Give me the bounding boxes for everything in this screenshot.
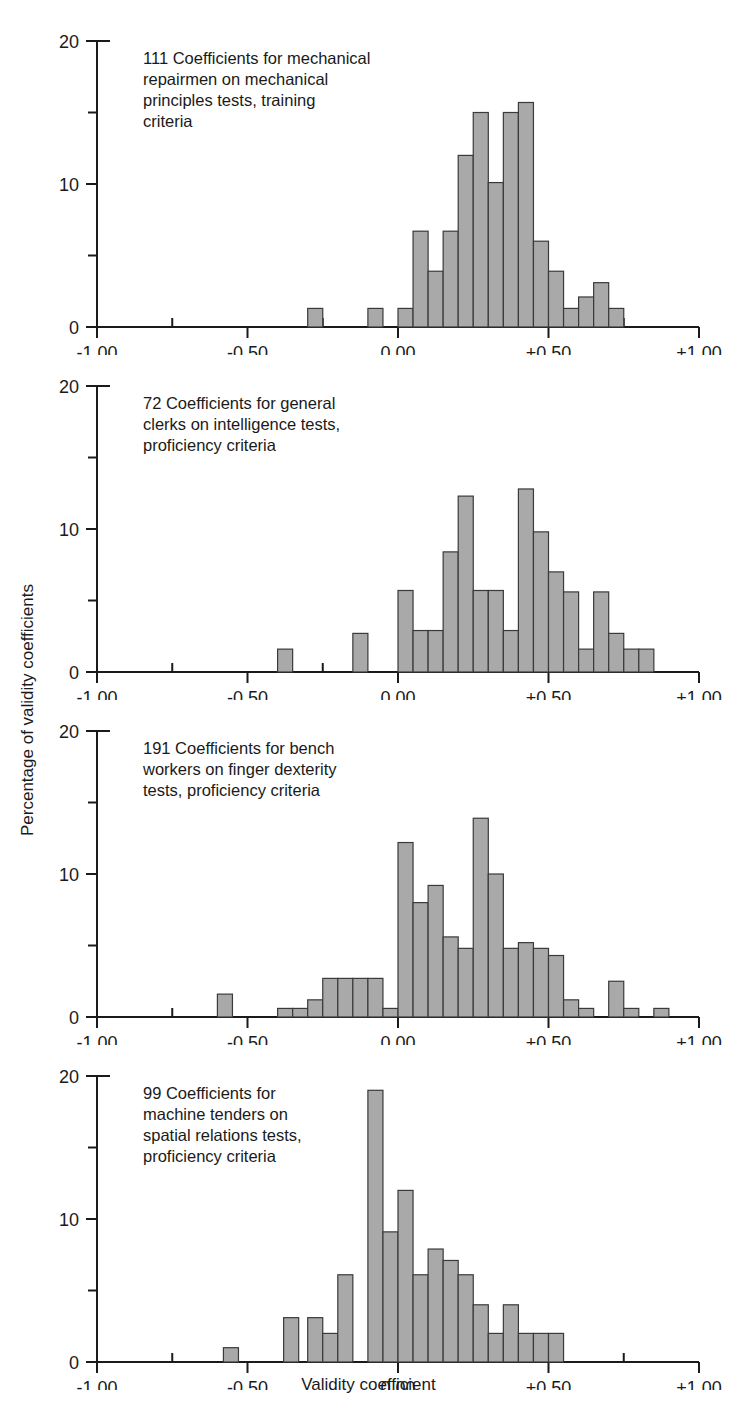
caption-line: spatial relations tests, (143, 1126, 302, 1144)
histogram-bar (503, 948, 518, 1017)
histogram-bar (398, 308, 413, 327)
histogram-bar (413, 631, 428, 672)
histogram-bar (609, 308, 624, 327)
histogram-bar (594, 592, 609, 672)
x-tick-label: +0.50 (526, 1378, 572, 1390)
histogram-bar (518, 489, 533, 672)
y-tick-label: 0 (69, 1353, 79, 1373)
histogram-bar (338, 978, 353, 1017)
y-tick-label: 20 (59, 1067, 79, 1087)
histogram-bar (368, 978, 383, 1017)
histogram-bar (284, 1318, 299, 1362)
histogram-bar (624, 1008, 639, 1017)
histogram-bar (308, 1318, 323, 1362)
y-tick-label: 0 (69, 1008, 79, 1028)
caption-line: principles tests, training (143, 91, 315, 109)
histogram-bar (383, 1008, 398, 1017)
histogram-bar (473, 113, 488, 328)
caption-line: proficiency criteria (143, 436, 277, 454)
histogram-bar (609, 633, 624, 672)
histogram-bar (443, 937, 458, 1017)
panel-2: 01020-1.00-0.500.00+0.50+1.0072 Coeffici… (0, 345, 737, 700)
histogram-bar (428, 1249, 443, 1362)
caption-line: clerks on intelligence tests, (143, 415, 340, 433)
histogram-bar (338, 1275, 353, 1362)
panel-4: 01020-1.00-0.500.00+0.50+1.0099 Coeffici… (0, 1035, 737, 1390)
histogram-bar (594, 283, 609, 327)
histogram-bar (579, 297, 594, 327)
histogram-bar (458, 496, 473, 672)
histogram-bar (223, 1348, 238, 1362)
histogram-bar (533, 948, 548, 1017)
histogram-bar (278, 649, 293, 672)
histogram-bar (624, 649, 639, 672)
histogram-bar (564, 1000, 579, 1017)
caption-line: machine tenders on (143, 1105, 288, 1123)
caption-line: repairmen on mechanical (143, 70, 328, 88)
histogram-bar (503, 631, 518, 672)
histogram-bar (443, 231, 458, 327)
histogram-bar (473, 590, 488, 672)
histogram-bar (533, 532, 548, 672)
histogram-bar (413, 1275, 428, 1362)
histogram-bar (639, 649, 654, 672)
histogram-bar (428, 271, 443, 327)
histogram-bar (473, 818, 488, 1017)
panel-1-plot: 01020-1.00-0.500.00+0.50+1.00111 Coeffic… (0, 0, 737, 355)
histogram-bar (383, 1232, 398, 1362)
y-tick-label: 20 (59, 32, 79, 52)
figure-multi-histogram: Percentage of validity coefficients Vali… (0, 0, 737, 1420)
x-tick-label: -1.00 (76, 1378, 117, 1390)
y-tick-label: 20 (59, 377, 79, 397)
histogram-bar (308, 1000, 323, 1017)
panel-caption: 191 Coefficients for benchworkers on fin… (142, 739, 337, 799)
panel-4-plot: 01020-1.00-0.500.00+0.50+1.0099 Coeffici… (0, 1035, 737, 1390)
histogram-bar (518, 1333, 533, 1362)
histogram-bar (549, 1333, 564, 1362)
x-tick-label: -0.50 (227, 1378, 268, 1390)
histogram-bar (323, 978, 338, 1017)
panel-caption: 99 Coefficients formachine tenders onspa… (143, 1084, 302, 1165)
histogram-bar (654, 1008, 669, 1017)
caption-line: 72 Coefficients for general (143, 394, 335, 412)
histogram-bar (488, 590, 503, 672)
y-tick-label: 20 (59, 722, 79, 742)
y-tick-label: 10 (59, 175, 79, 195)
histogram-bar (217, 994, 232, 1017)
histogram-bar (579, 649, 594, 672)
histogram-bar (443, 1260, 458, 1362)
histogram-bar (549, 271, 564, 327)
panel-2-plot: 01020-1.00-0.500.00+0.50+1.0072 Coeffici… (0, 345, 737, 700)
histogram-bar (353, 633, 368, 672)
y-tick-label: 10 (59, 1210, 79, 1230)
y-tick-label: 0 (69, 663, 79, 683)
histogram-bar (428, 885, 443, 1017)
histogram-bar (564, 592, 579, 672)
histogram-bar (533, 241, 548, 327)
histogram-bar (533, 1333, 548, 1362)
y-tick-label: 0 (69, 318, 79, 338)
caption-line: tests, proficiency criteria (143, 781, 321, 799)
histogram-bar (368, 308, 383, 327)
bars-group (217, 818, 668, 1017)
histogram-bar (398, 1190, 413, 1362)
x-tick-label: 0.00 (380, 1378, 415, 1390)
panel-3: 01020-1.00-0.500.00+0.50+1.00191 Coeffic… (0, 690, 737, 1045)
histogram-bar (443, 552, 458, 672)
caption-line: criteria (143, 112, 193, 130)
histogram-bar (503, 113, 518, 328)
histogram-bar (458, 155, 473, 327)
panel-caption: 111 Coefficients for mechanicalrepairmen… (143, 49, 370, 130)
histogram-bar (293, 1008, 308, 1017)
histogram-bar (368, 1090, 383, 1362)
histogram-bar (518, 102, 533, 327)
x-tick-label: +1.00 (676, 1378, 722, 1390)
histogram-bar (579, 1008, 594, 1017)
histogram-bar (503, 1305, 518, 1362)
histogram-bar (278, 1008, 293, 1017)
histogram-bar (458, 1275, 473, 1362)
caption-line: 99 Coefficients for (143, 1084, 276, 1102)
histogram-bar (549, 572, 564, 672)
histogram-bar (488, 183, 503, 327)
y-tick-label: 10 (59, 865, 79, 885)
